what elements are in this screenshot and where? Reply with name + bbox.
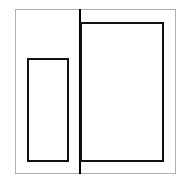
large-rect <box>80 22 164 162</box>
small-rect <box>27 58 69 162</box>
